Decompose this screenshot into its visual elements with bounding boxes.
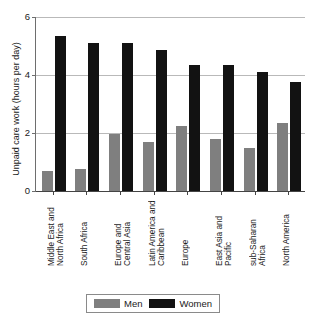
bar-group (70, 17, 104, 191)
x-category-label: sub-Saharan Africa (249, 180, 267, 266)
x-category-label: Europe (181, 180, 190, 266)
chart-legend: MenWomen (86, 294, 220, 313)
y-axis-title: Unpaid care work (hours per day) (11, 9, 21, 209)
bar-women (88, 43, 99, 191)
x-category-label: North America (282, 180, 291, 266)
legend-label: Women (179, 298, 212, 309)
legend-item: Women (149, 298, 212, 309)
bar-group (103, 17, 137, 191)
legend-swatch (94, 299, 120, 308)
y-tick-label: 4 (25, 70, 30, 80)
legend-label: Men (124, 298, 142, 309)
legend-item: Men (94, 298, 142, 309)
bar-group (204, 17, 238, 191)
bar-group (137, 17, 171, 191)
y-tick-mark (32, 191, 36, 192)
bar-group (238, 17, 272, 191)
plot-area: 0246 (36, 17, 305, 191)
x-category-label: Europe and Central Asia (114, 180, 132, 266)
bar-women (55, 36, 66, 191)
bar-women (156, 50, 167, 191)
y-tick-label: 2 (25, 128, 30, 138)
x-category-label: Middle East and North Africa (47, 180, 65, 266)
bar-group (36, 17, 70, 191)
bar-women (257, 72, 268, 191)
legend-swatch (149, 299, 175, 308)
bar-chart: Unpaid care work (hours per day) 0246 Mi… (0, 0, 321, 320)
x-category-label: East Asia and Pacific (215, 180, 233, 266)
y-tick-label: 0 (25, 186, 30, 196)
x-category-label: Latin America and Caribbean (148, 180, 166, 266)
bar-women (223, 65, 234, 191)
bar-women (122, 43, 133, 191)
bar-group (171, 17, 205, 191)
y-tick-label: 6 (25, 12, 30, 22)
bar-women (290, 82, 301, 191)
x-category-label: South Africa (80, 180, 89, 266)
bar-group (271, 17, 305, 191)
bar-women (189, 65, 200, 191)
